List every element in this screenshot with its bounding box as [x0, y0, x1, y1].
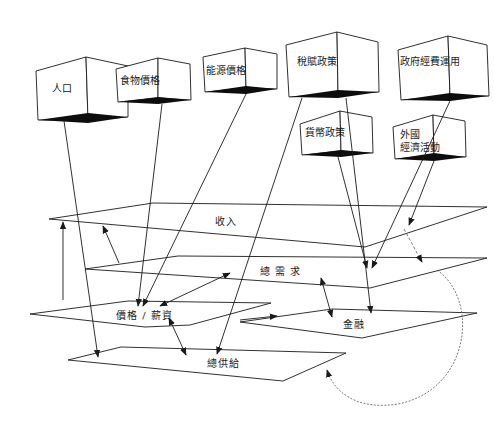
- plane-income: [49, 203, 487, 247]
- box-label-monetary-policy: 貨幣政策: [305, 126, 345, 139]
- box-label-energy-price: 能源價格: [206, 64, 246, 77]
- box-label-population: 人口: [52, 82, 72, 95]
- box-label-foreign-economy: 外國 經濟活動: [400, 128, 440, 154]
- box-label-government-spending: 政府經費運用: [400, 55, 460, 68]
- arrow: [321, 278, 332, 317]
- curved-feedback-arrow: [327, 270, 463, 405]
- arrow: [103, 226, 119, 263]
- plane-label-income: 收入: [215, 215, 237, 228]
- arrow: [338, 157, 367, 268]
- plane-label-aggregate-supply: 總供給: [207, 357, 240, 370]
- arrow: [64, 121, 98, 357]
- arrow: [409, 161, 434, 225]
- box-government-spending: [398, 36, 489, 101]
- arrow: [169, 318, 186, 355]
- box-label-food-price: 食物價格: [120, 74, 160, 87]
- arrow: [160, 273, 230, 306]
- plane-label-finance: 金融: [343, 318, 365, 331]
- box-population: [36, 57, 128, 123]
- box-label-tax-policy: 稅賦政策: [297, 55, 337, 68]
- arrow: [143, 94, 246, 306]
- plane-label-price-wage: 價格 / 薪資: [116, 309, 173, 322]
- plane-label-aggregate-demand: 總 需 求: [260, 265, 301, 278]
